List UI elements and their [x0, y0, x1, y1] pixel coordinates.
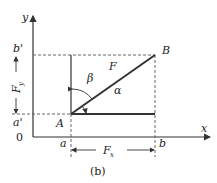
- force-decomposition-diagram: y x 0 b' a' A B a b F α β F x F y (b): [0, 0, 217, 183]
- beta-label: β: [86, 72, 93, 85]
- alpha-arc: [82, 106, 86, 113]
- caption: (b): [90, 165, 106, 178]
- x-axis-label: x: [201, 122, 208, 135]
- alpha-label: α: [114, 84, 122, 97]
- fy-label: F y: [10, 81, 25, 94]
- point-a-label: A: [55, 117, 64, 130]
- b-prime-label: b': [13, 42, 23, 55]
- point-b-label: B: [161, 44, 170, 57]
- fx-label: F x: [102, 144, 114, 159]
- vector-f-label: F: [108, 60, 117, 73]
- a-label: a: [60, 137, 67, 150]
- b-label: b: [159, 137, 166, 150]
- svg-text:y: y: [17, 81, 25, 87]
- a-prime-label: a': [13, 116, 23, 129]
- svg-text:x: x: [110, 151, 114, 159]
- origin-label: 0: [16, 131, 23, 144]
- beta-arc: [72, 89, 92, 99]
- y-axis-label: y: [21, 11, 29, 24]
